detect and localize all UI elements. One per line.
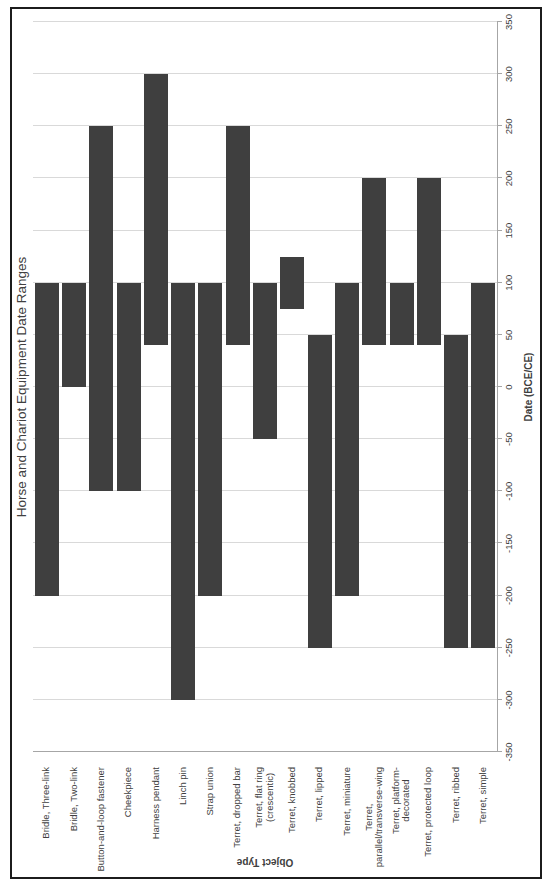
axis-tick <box>497 282 502 283</box>
axis-tick <box>497 490 502 491</box>
bar <box>117 283 141 492</box>
x-tick-label: -100 <box>503 482 514 501</box>
bar <box>226 126 250 345</box>
x-tick-label: -350 <box>503 742 514 761</box>
bar <box>144 74 168 345</box>
category-label-text: Terret, simple <box>478 767 489 824</box>
category-label-text: Strap union <box>205 767 216 816</box>
category-label-text: Terret, ribbed <box>451 767 462 823</box>
bar <box>198 283 222 596</box>
category-label-text: Button-and-loop fastener <box>96 767 107 872</box>
chart-canvas-rotated: Horse and Chariot Equipment Date Ranges … <box>0 0 554 892</box>
category-label: Cheekpiece <box>115 760 142 892</box>
category-label-text: Cheekpiece <box>123 767 134 817</box>
x-tick-label: 0 <box>503 384 514 389</box>
bar <box>444 335 468 648</box>
category-label: Bridle, Three-link <box>33 760 60 892</box>
chart-title: Horse and Chariot Equipment Date Ranges <box>14 257 29 517</box>
axis-tick <box>497 73 502 74</box>
axis-tick <box>497 699 502 700</box>
axis-tick <box>497 751 502 752</box>
axis-tick <box>497 125 502 126</box>
bar <box>471 283 495 648</box>
gridline <box>33 699 497 700</box>
x-tick-label: -250 <box>503 638 514 657</box>
gridline <box>33 647 497 648</box>
x-tick-label: -50 <box>503 432 514 446</box>
bar <box>62 283 86 387</box>
category-label: Terret, platform- decorated <box>388 760 415 892</box>
category-label: Harness pendant <box>142 760 169 892</box>
bar <box>280 257 304 309</box>
category-label: Terret, flat ring (crescentic) <box>251 760 278 892</box>
x-tick-label: 300 <box>503 66 514 82</box>
category-label: Linch pin <box>170 760 197 892</box>
gridline <box>33 73 497 74</box>
gridline <box>33 542 497 543</box>
bar <box>171 283 195 700</box>
category-label-text: Terret, protected loop <box>423 767 434 857</box>
chart-page: Horse and Chariot Equipment Date Ranges … <box>0 0 554 892</box>
gridline <box>33 595 497 596</box>
category-label-text: Linch pin <box>178 767 189 805</box>
bar <box>308 335 332 648</box>
bar <box>89 126 113 491</box>
category-label: Bridle, Two-link <box>60 760 87 892</box>
axis-tick <box>497 647 502 648</box>
x-tick-label: 350 <box>503 14 514 30</box>
bar <box>253 283 277 439</box>
category-label-text: Harness pendant <box>151 767 162 839</box>
x-tick-label: -200 <box>503 586 514 605</box>
x-tick-label: 200 <box>503 170 514 186</box>
x-tick-label: -150 <box>503 534 514 553</box>
plot-area <box>33 22 497 752</box>
category-label: Terret, ribbed <box>442 760 469 892</box>
bar <box>390 283 414 346</box>
category-label: Terret, miniature <box>333 760 360 892</box>
x-tick-label: -300 <box>503 690 514 709</box>
bar <box>335 283 359 596</box>
category-label: Terret, parallel/transverse-wing <box>361 760 388 892</box>
x-tick-label: 150 <box>503 223 514 239</box>
bar <box>417 178 441 345</box>
category-label-text: Terret, knobbed <box>287 767 298 833</box>
gridline <box>33 21 497 22</box>
category-label-text: Terret, flat ring (crescentic) <box>254 767 275 828</box>
y-axis-title: Object Type <box>237 857 294 868</box>
category-label-text: Terret, lipped <box>314 767 325 822</box>
category-label: Terret, protected loop <box>415 760 442 892</box>
category-label-text: Terret, platform- decorated <box>391 767 412 834</box>
axis-tick <box>497 334 502 335</box>
category-label: Terret, simple <box>470 760 497 892</box>
x-axis-title: Date (BCE/CE) <box>523 353 534 422</box>
bar <box>362 178 386 345</box>
category-label: Terret, dropped bar <box>224 760 251 892</box>
category-label-text: Terret, parallel/transverse-wing <box>364 767 385 867</box>
x-tick-label: 250 <box>503 118 514 134</box>
axis-tick <box>497 542 502 543</box>
category-axis-line <box>33 751 497 752</box>
category-label: Terret, knobbed <box>279 760 306 892</box>
category-label-text: Bridle, Three-link <box>41 767 52 839</box>
category-label-text: Terret, miniature <box>342 767 353 836</box>
category-label: Strap union <box>197 760 224 892</box>
category-label-text: Terret, dropped bar <box>232 767 243 848</box>
axis-tick <box>497 21 502 22</box>
axis-tick <box>497 230 502 231</box>
axis-tick <box>497 438 502 439</box>
value-axis-line <box>497 22 498 752</box>
axis-tick <box>497 177 502 178</box>
axis-tick <box>497 595 502 596</box>
x-tick-label: 100 <box>503 275 514 291</box>
bar <box>35 283 59 596</box>
x-tick-label: 50 <box>503 330 514 341</box>
axis-tick <box>497 386 502 387</box>
category-label: Button-and-loop fastener <box>88 760 115 892</box>
category-label: Terret, lipped <box>306 760 333 892</box>
category-label-text: Bridle, Two-link <box>69 767 80 831</box>
